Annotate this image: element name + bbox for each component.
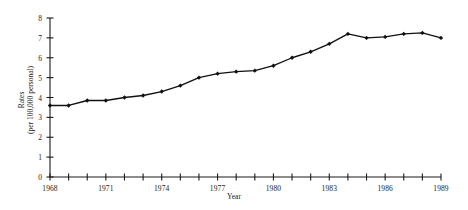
data-point [308,50,312,54]
data-line-rates [50,33,441,106]
y-axis-title: Rates (per 100,000 personal) [14,50,28,150]
data-point [420,31,424,35]
y-tick-label: 7 [26,33,42,42]
data-point [122,95,126,99]
chart-svg [0,0,468,210]
data-point [402,32,406,36]
x-axis-title: Year [0,192,468,201]
data-point [160,89,164,93]
data-point [66,103,70,107]
data-markers-rates [48,31,443,108]
data-point [141,93,145,97]
chart-container: 012345678 196819711974197719801983198619… [0,0,468,210]
y-axis-title-line2: (per 100,000 personal) [26,66,35,134]
data-point [439,36,443,40]
data-point [383,35,387,39]
data-point [215,71,219,75]
data-point [271,64,275,68]
y-axis-title-line1: Rates [17,92,26,109]
data-point [48,103,52,107]
data-point [85,98,89,102]
data-point [253,68,257,72]
data-point [364,36,368,40]
data-point [234,69,238,73]
data-point [104,98,108,102]
axes-group [50,18,441,177]
data-point [290,56,294,60]
y-tick-label: 0 [26,173,42,182]
y-tick-label: 8 [26,14,42,23]
plot-area: 012345678 196819711974197719801983198619… [0,0,468,210]
y-tick-label: 2 [26,133,42,142]
y-tick-label: 1 [26,153,42,162]
data-point [197,75,201,79]
data-point [178,83,182,87]
y-tick-label: 6 [26,53,42,62]
